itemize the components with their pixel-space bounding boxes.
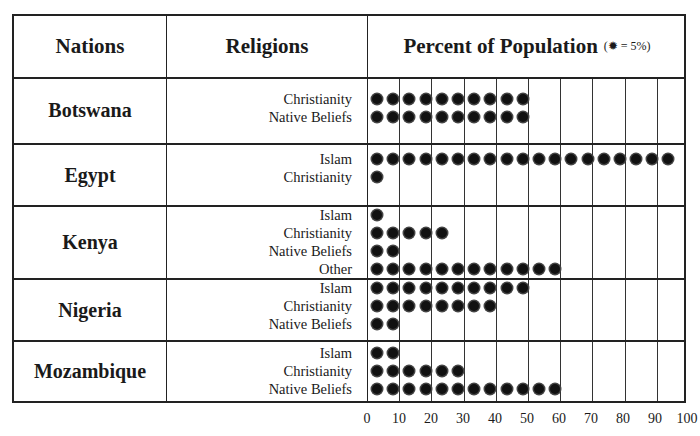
x-tick-label: 70 (584, 411, 598, 427)
nation-row: BotswanaChristianityNative Beliefs (14, 79, 684, 143)
population-dot-icon (469, 154, 479, 164)
population-dot-icon (404, 94, 414, 104)
population-dot-icon (518, 154, 528, 164)
nation-name: Mozambique (14, 342, 166, 401)
dot-row (369, 297, 499, 315)
population-dot-icon (388, 112, 398, 122)
dot-row (369, 206, 385, 224)
x-tick-label: 90 (648, 411, 662, 427)
population-dot-icon (518, 112, 528, 122)
religion-label: Islam (166, 344, 352, 363)
religion-label: Native Beliefs (166, 380, 352, 399)
population-dot-icon (550, 384, 560, 394)
religion-label: Islam (166, 279, 352, 298)
population-dot-icon (437, 112, 447, 122)
population-dot-icon (437, 228, 447, 238)
population-dot-icon (469, 384, 479, 394)
population-dot-icon (485, 301, 495, 311)
dot-row (369, 224, 450, 242)
religion-label: Christianity (166, 297, 352, 316)
percent-header-label: Percent of Population (403, 34, 597, 59)
population-dot-icon (404, 366, 414, 376)
population-dot-icon (388, 246, 398, 256)
population-dot-icon (372, 283, 382, 293)
population-dot-icon (550, 154, 560, 164)
nation-row: EgyptIslamChristianity (14, 143, 684, 205)
nation-name: Egypt (14, 145, 166, 205)
population-dot-icon (372, 94, 382, 104)
population-dot-icon (372, 384, 382, 394)
population-dot-icon (469, 283, 479, 293)
population-dot-icon (421, 154, 431, 164)
religions-header: Religions (166, 16, 368, 77)
population-dot-icon (566, 154, 576, 164)
population-dot-icon (502, 112, 512, 122)
population-dot-icon (437, 94, 447, 104)
population-dot-icon (421, 228, 431, 238)
religion-label: Native Beliefs (166, 315, 352, 334)
population-dot-icon (372, 348, 382, 358)
population-dot-icon (485, 154, 495, 164)
population-dot-icon (388, 319, 398, 329)
x-tick-label: 100 (677, 411, 698, 427)
religion-label: Christianity (166, 224, 352, 243)
population-dot-icon (388, 348, 398, 358)
population-dot-icon (615, 154, 625, 164)
population-dot-icon (372, 228, 382, 238)
population-dot-icon (453, 264, 463, 274)
table-header: Nations Religions Percent of Population … (14, 16, 684, 79)
population-dot-icon (437, 366, 447, 376)
population-dot-icon (421, 283, 431, 293)
population-dot-icon (372, 112, 382, 122)
population-dot-icon (502, 283, 512, 293)
nation-row: KenyaIslamChristianityNative BeliefsOthe… (14, 205, 684, 278)
population-dot-icon (388, 301, 398, 311)
population-dot-icon (502, 94, 512, 104)
dot-row (369, 168, 385, 186)
population-dot-icon (404, 154, 414, 164)
religion-label: Christianity (166, 168, 352, 187)
population-dot-icon (469, 94, 479, 104)
religion-label: Native Beliefs (166, 108, 352, 127)
population-dot-icon (453, 154, 463, 164)
x-tick-label: 60 (552, 411, 566, 427)
population-dot-icon (421, 366, 431, 376)
population-dot-icon (485, 283, 495, 293)
population-dot-icon (469, 301, 479, 311)
religion-label: Native Beliefs (166, 242, 352, 261)
population-dot-icon (421, 384, 431, 394)
population-dot-icon (469, 264, 479, 274)
population-dot-icon (388, 283, 398, 293)
percent-header: Percent of Population (✹ = 5%) (368, 16, 686, 77)
population-dot-icon (372, 366, 382, 376)
population-dot-icon (453, 112, 463, 122)
nation-name: Botswana (14, 79, 166, 141)
population-dot-icon (421, 301, 431, 311)
population-dot-icon (437, 264, 447, 274)
population-dot-icon (404, 112, 414, 122)
population-dot-icon (453, 283, 463, 293)
nation-name: Kenya (14, 207, 166, 278)
population-dot-icon (518, 94, 528, 104)
population-dot-icon (534, 154, 544, 164)
population-dot-icon (534, 264, 544, 274)
population-dot-icon (437, 301, 447, 311)
dot-row (369, 150, 677, 168)
population-dot-icon (647, 154, 657, 164)
nation-row: NigeriaIslamChristianityNative Beliefs (14, 278, 684, 340)
dot-row (369, 242, 401, 260)
population-dot-icon (421, 264, 431, 274)
population-dot-icon (404, 384, 414, 394)
x-tick-label: 50 (520, 411, 534, 427)
population-dot-icon (388, 154, 398, 164)
population-dot-icon (388, 228, 398, 238)
dot-row (369, 380, 563, 398)
population-dot-icon (372, 264, 382, 274)
population-dot-icon (437, 384, 447, 394)
population-dot-icon (631, 154, 641, 164)
population-dot-icon (437, 283, 447, 293)
population-dot-icon (453, 301, 463, 311)
population-dot-icon (388, 94, 398, 104)
population-dot-icon (437, 154, 447, 164)
x-tick-label: 40 (488, 411, 502, 427)
